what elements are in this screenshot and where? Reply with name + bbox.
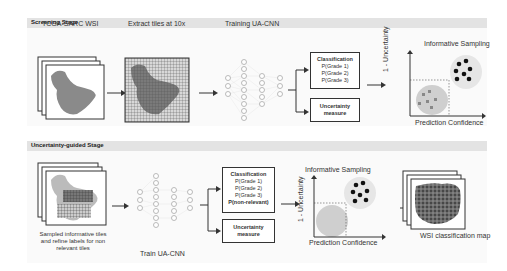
prob-non-relevant: P(non-relevant): [223, 199, 274, 206]
branch-connector: [200, 183, 222, 239]
sampled-tiles-stack-image: [37, 162, 109, 228]
classification-title: Classification: [223, 171, 274, 178]
plot-xlabel: Prediction Confidence: [309, 239, 378, 246]
wsi-stack-image: [37, 56, 107, 122]
plot-xlabel: Prediction Confidence: [415, 119, 484, 126]
arrow-icon: [112, 203, 130, 209]
uncertainty-guided-stage-header: Uncertainty-guided Stage: [27, 141, 487, 151]
caption-line1: Sampled informative tiles: [33, 231, 113, 238]
tiled-wsi-image: [125, 58, 189, 122]
arrow-icon: [199, 90, 219, 96]
wsi-label: TCGA-SARC WSI: [42, 20, 98, 27]
caption-line2: and refine labels for non: [33, 238, 113, 245]
plot-ylabel: 1 - Uncertainty: [382, 26, 389, 72]
arrow-icon: [367, 82, 387, 88]
branch-connector: [288, 66, 310, 116]
classification-box: Classification P(Grade 1) P(Grade 2) P(G…: [310, 52, 360, 89]
wsi-classification-map-label: WSI classification map: [420, 232, 490, 239]
uncertainty-measure-box: Uncertainty measure: [310, 98, 360, 122]
prob-grade-2: P(Grade 2): [311, 70, 359, 77]
ua-cnn-network-icon: [134, 172, 196, 232]
uncertainty-measure-box: Uncertainty measure: [222, 219, 275, 243]
sampling-scatter-plot: [390, 50, 490, 124]
informative-sampling-label: Informative Sampling: [305, 166, 371, 173]
caption-line3: relevant tiles: [33, 245, 113, 252]
uncertainty-line1: Uncertainty: [223, 224, 274, 231]
uncertainty-guided-stage-title: Uncertainty-guided Stage: [31, 142, 104, 148]
train-ua-cnn-label: Train UA-CNN: [140, 250, 185, 257]
informative-sampling-label: Informative Sampling: [424, 40, 490, 47]
prob-grade-1: P(Grade 1): [223, 178, 274, 185]
sampling-scatter-plot: [300, 175, 400, 243]
extract-tiles-label: Extract tiles at 10x: [128, 20, 185, 27]
uncertainty-line2: measure: [311, 110, 359, 117]
plot-ylabel: 1 - Uncertainty: [297, 176, 304, 222]
classification-title: Classification: [311, 56, 359, 63]
arrow-icon: [107, 90, 127, 96]
prob-grade-2: P(Grade 2): [223, 185, 274, 192]
training-ua-cnn-label: Training UA-CNN: [225, 20, 279, 27]
uncertainty-line2: measure: [223, 231, 274, 238]
classification-box: Classification P(Grade 1) P(Grade 2) P(G…: [222, 167, 275, 213]
uncertainty-line1: Uncertainty: [311, 103, 359, 110]
prob-grade-1: P(Grade 1): [311, 63, 359, 70]
prob-grade-3: P(Grade 3): [223, 192, 274, 199]
wsi-classification-map-image: [402, 170, 474, 232]
prob-grade-3: P(Grade 3): [311, 77, 359, 84]
sampled-tiles-caption: Sampled informative tiles and refine lab…: [33, 231, 113, 252]
ua-cnn-network-icon: [222, 56, 292, 122]
